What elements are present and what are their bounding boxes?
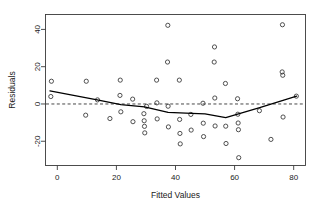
data-point xyxy=(165,60,169,64)
data-point xyxy=(118,93,122,97)
data-point xyxy=(281,115,285,119)
data-point xyxy=(155,117,159,121)
data-point xyxy=(235,97,239,101)
data-point xyxy=(84,79,88,83)
data-point xyxy=(201,121,205,125)
data-point xyxy=(108,116,112,120)
data-point xyxy=(213,96,217,100)
data-point xyxy=(131,120,135,124)
data-point xyxy=(236,128,240,132)
data-point xyxy=(280,23,284,27)
data-point xyxy=(224,141,228,145)
data-point xyxy=(201,135,205,139)
data-point xyxy=(178,131,182,135)
x-axis: 020406080 xyxy=(55,166,299,182)
residual-plot: 020406080-2002040Fitted ValuesResiduals xyxy=(0,0,321,217)
data-point xyxy=(154,78,158,82)
data-point xyxy=(118,78,122,82)
data-point xyxy=(237,156,241,160)
data-point xyxy=(143,131,147,135)
data-point xyxy=(257,109,261,113)
y-tick-label: 40 xyxy=(34,24,43,33)
y-tick-label: -20 xyxy=(34,135,43,147)
data-point xyxy=(166,104,170,108)
data-points xyxy=(49,23,299,160)
data-point xyxy=(213,124,217,128)
data-point xyxy=(166,23,170,27)
data-point xyxy=(201,101,205,105)
y-axis-title: Residuals xyxy=(7,71,17,108)
data-point xyxy=(142,112,146,116)
data-point xyxy=(178,142,182,146)
x-tick-label: 20 xyxy=(112,173,121,182)
y-tick-label: 20 xyxy=(34,62,43,71)
data-point xyxy=(49,94,53,98)
plot-frame xyxy=(46,15,306,166)
data-point xyxy=(84,113,88,117)
data-point xyxy=(178,117,182,121)
data-point xyxy=(189,128,193,132)
data-point xyxy=(166,125,170,129)
plot-canvas: 020406080-2002040Fitted ValuesResiduals xyxy=(0,0,321,217)
data-point xyxy=(223,81,227,85)
data-point xyxy=(212,45,216,49)
x-tick-label: 60 xyxy=(230,173,239,182)
data-point xyxy=(142,124,146,128)
x-axis-title: Fitted Values xyxy=(151,190,200,200)
data-point xyxy=(119,110,123,114)
y-tick-label: 0 xyxy=(34,101,43,106)
data-point xyxy=(177,78,181,82)
x-tick-label: 0 xyxy=(55,173,60,182)
data-point xyxy=(131,97,135,101)
data-point xyxy=(236,121,240,125)
data-point xyxy=(269,137,273,141)
x-tick-label: 80 xyxy=(289,173,298,182)
x-tick-label: 40 xyxy=(171,173,180,182)
data-point xyxy=(49,79,53,83)
data-point xyxy=(212,60,216,64)
data-point xyxy=(142,119,146,123)
y-axis: -2002040 xyxy=(34,24,46,147)
data-point xyxy=(224,124,228,128)
